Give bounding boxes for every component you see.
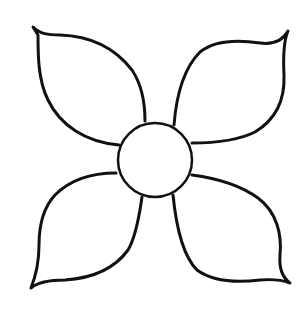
flower-drawing [0, 0, 308, 312]
petal-top-right [174, 31, 288, 143]
petal-top-left [33, 27, 145, 145]
petal-bottom-left [31, 173, 142, 288]
petal-bottom-right [173, 175, 290, 283]
flower-center-circle [118, 123, 192, 197]
flower-svg [0, 0, 308, 312]
